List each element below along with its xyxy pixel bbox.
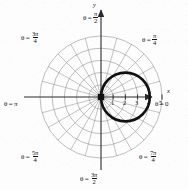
- fraction: π2: [93, 11, 98, 25]
- x-tick-2: 2: [123, 100, 126, 107]
- fraction: 5π4: [31, 150, 39, 164]
- angle-label-theta-3pi-4: θ = 3π4: [21, 31, 39, 45]
- grid-spoke: [48, 67, 101, 98]
- fraction: 3π2: [90, 172, 98, 186]
- y-axis-label: y: [93, 2, 96, 9]
- fraction: 7π4: [149, 150, 157, 164]
- grid-spoke: [42, 97, 101, 113]
- angle-label-theta-7pi-4: θ = 7π4: [139, 150, 157, 164]
- grid-spoke: [85, 97, 101, 156]
- grid-spoke: [101, 44, 132, 97]
- angle-label-theta-5pi-4: θ = 5π4: [21, 150, 39, 164]
- grid-spoke: [101, 97, 160, 113]
- fraction: 3π4: [31, 31, 39, 45]
- angle-label-theta-pi-4: θ = π4: [142, 33, 157, 47]
- angle-label-theta-0: θ = 0: [155, 101, 168, 108]
- grid-spoke: [71, 44, 102, 97]
- angle-label-theta-pi: θ = π: [4, 101, 17, 108]
- x-tick-3: 3: [135, 100, 138, 107]
- angle-label-theta-pi-2: θ = π2: [83, 11, 98, 25]
- grid-spoke: [48, 97, 101, 128]
- x-tick-4: 4: [147, 100, 150, 107]
- fraction: π4: [152, 33, 157, 47]
- grid-spoke: [71, 97, 102, 150]
- pole-dot: [98, 94, 104, 100]
- grid-spoke: [58, 54, 101, 97]
- grid-spoke: [85, 38, 101, 97]
- grid-spoke: [42, 81, 101, 97]
- angle-label-theta-3pi-2: θ = 3π2: [80, 172, 98, 186]
- grid-spoke: [101, 97, 132, 150]
- x-axis-label: x: [167, 88, 170, 95]
- grid-spoke: [58, 97, 101, 140]
- grid-spoke: [101, 81, 160, 97]
- x-tick-1: 1: [111, 100, 114, 107]
